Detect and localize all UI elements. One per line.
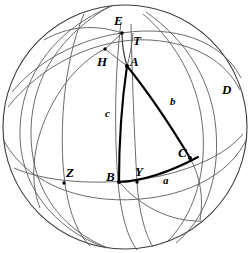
spherical-diagram-figure: E T H A D c b C Z B Y a: [0, 0, 251, 253]
point-label-Y: Y: [135, 165, 143, 178]
sphere-outline: [3, 5, 247, 249]
meridian-right-through-d: [146, 12, 217, 243]
vertex-dot-Y: [135, 180, 138, 183]
point-label-H: H: [97, 55, 107, 68]
point-label-D: D: [222, 83, 231, 96]
side-label-b: b: [170, 96, 176, 107]
meridian-left-inner: [31, 6, 110, 248]
side-label-c: c: [105, 108, 110, 119]
vertex-dot-H: [103, 47, 106, 50]
vertex-dot-A: [125, 64, 129, 68]
arc-e-to-left-limb: [44, 28, 122, 40]
vertex-dot-B: [117, 180, 121, 184]
meridian-through-z: [62, 14, 90, 246]
point-label-E: E: [114, 14, 123, 27]
point-label-C: C: [178, 146, 187, 159]
side-label-a: a: [163, 175, 169, 186]
vertex-dot-Z: [62, 181, 65, 184]
vertex-dot-C: [188, 156, 192, 160]
great-circle-horizon: [14, 134, 243, 182]
point-label-A: A: [130, 55, 139, 68]
arc-a-to-e-stub: [122, 33, 127, 66]
point-label-T: T: [133, 34, 141, 47]
point-label-B: B: [106, 170, 115, 183]
triangle-side-a: [119, 157, 198, 182]
sphere-drawing-canvas: [0, 0, 251, 253]
point-label-Z: Z: [66, 166, 74, 179]
triangle-side-c: [119, 66, 127, 182]
vertex-dot-E: [120, 31, 123, 34]
meridian-right-inner: [143, 14, 203, 241]
